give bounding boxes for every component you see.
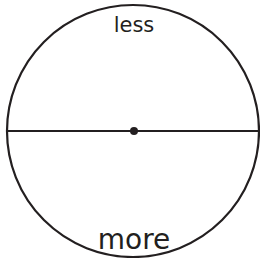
diagram-canvas: less more <box>0 0 260 258</box>
bottom-label-more: more <box>98 223 171 256</box>
center-point <box>130 127 138 135</box>
top-label-less: less <box>114 13 155 37</box>
